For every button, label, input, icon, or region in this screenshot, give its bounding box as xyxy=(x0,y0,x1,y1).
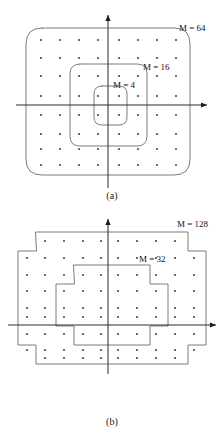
label-m16: M = 16 xyxy=(143,62,170,72)
boundary-m128 xyxy=(18,232,206,364)
panel-b-cross-qam: M = 128 M = 32 xyxy=(0,210,224,444)
caption-panel-a: (a) xyxy=(0,190,224,201)
axes-panel-a xyxy=(16,15,207,188)
caption-panel-b: (b) xyxy=(0,416,224,427)
panel-a-svg: M = 64 M = 16 M = 4 xyxy=(0,0,224,210)
x-axis-arrowhead-a xyxy=(201,102,207,107)
label-m4: M = 4 xyxy=(113,80,136,90)
panel-b-svg: M = 128 M = 32 xyxy=(0,210,224,444)
panel-a-square-qam: M = 64 M = 16 M = 4 xyxy=(0,0,224,210)
label-m32: M = 32 xyxy=(139,254,166,264)
boundary-m32 xyxy=(56,265,168,345)
x-axis-arrowhead-b xyxy=(210,322,216,327)
axes-panel-b xyxy=(8,219,216,374)
label-m64: M = 64 xyxy=(179,23,206,33)
y-axis-arrowhead-a xyxy=(105,15,110,21)
constellation-points-b xyxy=(26,240,195,359)
y-axis-arrowhead-b xyxy=(105,219,110,225)
figure-page: M = 64 M = 16 M = 4 (a) xyxy=(0,0,224,444)
label-m128: M = 128 xyxy=(177,219,209,229)
